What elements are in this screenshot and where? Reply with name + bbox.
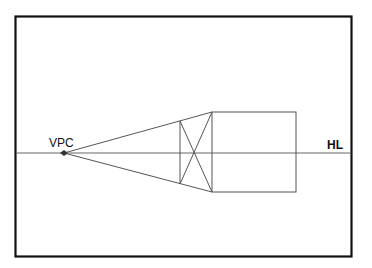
vanishing-point-marker [60,150,68,156]
front-rectangle [212,112,296,192]
diagonal-line-1 [180,121,212,192]
converging-line-bottom [64,153,212,192]
vanishing-point-label: VPC [49,136,74,150]
perspective-diagram: VPC HL [0,0,372,268]
converging-line-top [64,112,212,153]
diagonal-line-2 [180,112,212,184]
horizon-line-label: HL [327,138,343,152]
